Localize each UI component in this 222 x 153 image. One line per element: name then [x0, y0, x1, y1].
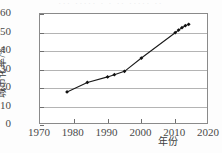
- data-point-1990: [106, 75, 110, 79]
- data-point-1984: [85, 81, 89, 85]
- data-point-2014: [187, 22, 191, 26]
- x-tick-label-1970: 1970: [22, 127, 56, 138]
- y-tick-label-50: 50: [0, 26, 11, 37]
- data-point-1992: [112, 73, 116, 77]
- x-tick-label-2000: 2000: [123, 127, 157, 138]
- y-tick-label-0: 0: [0, 118, 11, 129]
- clipped-header-text: ··· ····· · · ·· ····· ··: [0, 0, 222, 9]
- data-point-1978: [65, 90, 69, 94]
- x-tick-label-1980: 1980: [56, 127, 90, 138]
- y-tick-label-40: 40: [0, 44, 11, 55]
- y-tick-label-10: 10: [0, 100, 11, 111]
- x-tick-label-1990: 1990: [90, 127, 124, 138]
- x-tick-label-2010: 2010: [157, 127, 191, 138]
- series-line-chart: [40, 14, 209, 125]
- chart-screenshot: ··· ····· · · ·· ····· ·· 城市化率/% 年份 0102…: [0, 0, 222, 153]
- y-tick-label-20: 20: [0, 81, 11, 92]
- x-tick-label-2020: 2020: [191, 127, 222, 138]
- y-tick-label-30: 30: [0, 63, 11, 74]
- plot-frame: [39, 13, 208, 124]
- y-tick-label-60: 60: [0, 7, 11, 18]
- series-line: [67, 24, 189, 92]
